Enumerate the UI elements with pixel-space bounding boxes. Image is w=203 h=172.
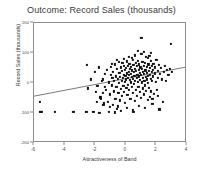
data-point bbox=[105, 89, 107, 91]
data-point bbox=[151, 98, 153, 100]
data-point bbox=[116, 68, 118, 70]
data-point bbox=[102, 78, 104, 80]
data-point bbox=[100, 98, 102, 100]
data-point bbox=[87, 87, 89, 89]
data-point bbox=[104, 73, 106, 75]
data-point bbox=[155, 81, 157, 83]
x-tick-mark bbox=[186, 142, 187, 145]
data-point bbox=[140, 37, 142, 39]
data-point bbox=[113, 80, 115, 82]
data-point bbox=[163, 71, 165, 73]
data-point bbox=[171, 71, 173, 73]
data-point bbox=[94, 91, 96, 93]
data-point bbox=[131, 57, 133, 59]
x-tick-label: -4 bbox=[62, 147, 66, 152]
data-point bbox=[155, 59, 157, 61]
x-tick-label: 0 bbox=[124, 147, 127, 152]
data-point bbox=[96, 101, 98, 103]
data-point bbox=[152, 69, 154, 71]
data-point bbox=[123, 81, 125, 83]
data-point bbox=[115, 86, 117, 88]
data-point bbox=[120, 88, 122, 90]
data-point bbox=[127, 84, 129, 86]
data-point bbox=[158, 108, 160, 110]
data-point bbox=[144, 62, 146, 64]
data-point bbox=[113, 90, 115, 92]
data-point bbox=[121, 70, 123, 72]
data-point bbox=[140, 97, 142, 99]
data-point bbox=[110, 66, 112, 68]
data-point bbox=[120, 66, 122, 68]
x-tick-mark bbox=[124, 142, 125, 145]
data-point bbox=[39, 101, 41, 103]
data-point bbox=[151, 103, 153, 105]
data-point bbox=[137, 50, 139, 52]
plot-area bbox=[33, 22, 186, 142]
data-point bbox=[146, 78, 148, 80]
data-point bbox=[147, 63, 149, 65]
data-point bbox=[134, 100, 136, 102]
data-point bbox=[170, 43, 172, 45]
data-point bbox=[153, 93, 155, 95]
data-point bbox=[159, 73, 161, 75]
data-point bbox=[149, 74, 151, 76]
data-point bbox=[111, 84, 113, 86]
data-point bbox=[97, 66, 99, 68]
data-point bbox=[114, 63, 116, 65]
data-point bbox=[111, 77, 113, 79]
data-point bbox=[133, 83, 135, 85]
data-point bbox=[148, 87, 150, 89]
data-point bbox=[111, 63, 113, 65]
data-point bbox=[152, 75, 154, 77]
x-tick-label: 2 bbox=[154, 147, 157, 152]
data-point bbox=[106, 69, 108, 71]
data-point bbox=[127, 65, 129, 67]
data-point bbox=[117, 92, 119, 94]
data-point bbox=[157, 77, 159, 79]
y-tick-label: -100 bbox=[21, 110, 29, 115]
data-point bbox=[109, 93, 111, 95]
data-point bbox=[129, 98, 131, 100]
data-point bbox=[108, 111, 110, 113]
data-point bbox=[158, 64, 160, 66]
data-point bbox=[96, 85, 98, 87]
data-point bbox=[72, 110, 74, 112]
data-point bbox=[144, 107, 146, 109]
data-point bbox=[85, 110, 87, 112]
x-tick-label: 4 bbox=[185, 147, 188, 152]
data-point bbox=[120, 80, 122, 82]
data-point bbox=[92, 110, 94, 112]
data-point bbox=[150, 71, 152, 73]
data-point bbox=[130, 73, 132, 75]
data-point bbox=[101, 92, 103, 94]
data-point bbox=[142, 65, 144, 67]
data-point bbox=[107, 101, 109, 103]
data-point bbox=[137, 60, 139, 62]
data-point bbox=[142, 87, 144, 89]
data-point bbox=[114, 111, 116, 113]
data-point bbox=[168, 68, 170, 70]
data-point bbox=[136, 95, 138, 97]
x-axis: -6-4-2024 bbox=[33, 142, 186, 156]
scatter-plot-figure: Outcome: Record Sales (thousands) -200-1… bbox=[0, 0, 203, 172]
data-point bbox=[124, 102, 126, 104]
x-tick-mark bbox=[63, 142, 64, 145]
data-point bbox=[143, 51, 145, 53]
data-point bbox=[119, 99, 121, 101]
data-point bbox=[164, 65, 166, 67]
data-point bbox=[146, 99, 148, 101]
data-point bbox=[140, 53, 142, 55]
data-point bbox=[143, 93, 145, 95]
x-tick-label: -6 bbox=[31, 147, 35, 152]
x-tick-mark bbox=[33, 142, 34, 145]
data-point bbox=[137, 86, 139, 88]
data-point bbox=[118, 82, 120, 84]
data-point bbox=[156, 89, 158, 91]
y-tick-label: 0 bbox=[27, 80, 29, 85]
data-point bbox=[93, 71, 95, 73]
data-point bbox=[150, 60, 152, 62]
x-tick-mark bbox=[155, 142, 156, 145]
data-point bbox=[132, 92, 134, 94]
data-point bbox=[116, 108, 118, 110]
data-point bbox=[151, 80, 153, 82]
